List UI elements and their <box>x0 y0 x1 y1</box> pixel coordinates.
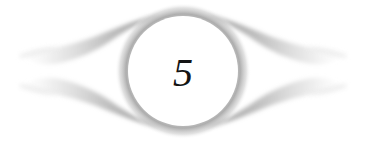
chapter-number-medallion: 5 <box>115 3 251 139</box>
ornament-page: 5 <box>0 0 366 142</box>
chapter-ornament-graphic: 5 <box>0 0 366 142</box>
chapter-number: 5 <box>173 50 193 95</box>
